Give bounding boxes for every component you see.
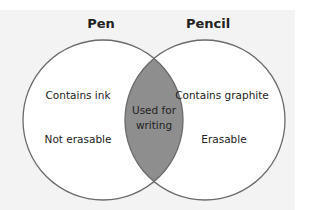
- pencil-title: Pencil: [186, 16, 230, 31]
- pen-title: Pen: [87, 16, 115, 31]
- pen-trait-ink: Contains ink: [46, 88, 111, 102]
- intersection-line-2: writing: [136, 118, 172, 132]
- pencil-trait-graphite: Contains graphite: [175, 88, 269, 102]
- pencil-trait-erasable: Erasable: [201, 132, 246, 146]
- intersection-line-1: Used for: [132, 103, 176, 117]
- pen-trait-not-erasable: Not erasable: [45, 132, 112, 146]
